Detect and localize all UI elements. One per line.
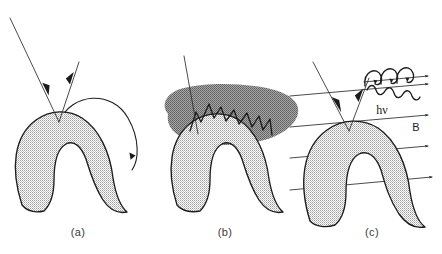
panel-c-helix-arrow-2	[389, 79, 393, 84]
panel-a: (a)	[10, 18, 137, 238]
panel-c-photon-wave	[367, 86, 420, 100]
panel-a-outgoing-arrowhead	[66, 72, 74, 85]
panel-a-body	[15, 112, 127, 213]
panel-b: (b)	[165, 56, 299, 238]
panel-c-caption: (c)	[365, 226, 379, 238]
panel-c-incoming-ray	[313, 62, 349, 131]
panel-a-incoming-ray	[10, 18, 59, 122]
panel-c: hν B (c)	[290, 62, 432, 238]
panel-c-helix-arrow-3	[405, 77, 409, 82]
panel-c-helix-arrow-1	[373, 80, 377, 85]
panel-b-caption: (b)	[218, 226, 233, 238]
scientific-figure-svg: (a) (b)	[0, 0, 442, 254]
panel-c-body	[304, 121, 425, 227]
panel-c-helix-loop-2	[381, 69, 398, 84]
panel-a-caption: (a)	[71, 226, 86, 238]
figure-root: (a) (b)	[0, 0, 442, 254]
photon-label: hν	[376, 103, 388, 117]
magnetic-field-label: B	[412, 121, 419, 133]
panel-a-arc-large-arrowhead	[129, 153, 135, 160]
panel-c-helix-loop-3	[397, 68, 414, 83]
panel-c-incoming-arrowhead	[332, 97, 342, 112]
panel-c-helix-loop-1	[365, 71, 382, 86]
